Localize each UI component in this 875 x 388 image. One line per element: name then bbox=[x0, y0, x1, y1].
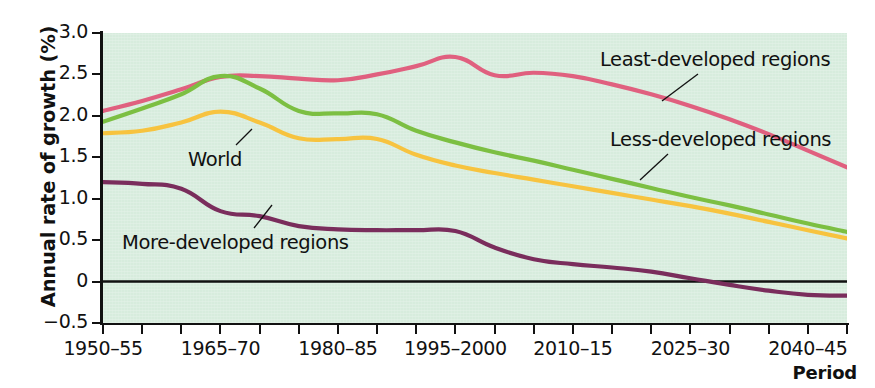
x-tick-label: 1950–55 bbox=[63, 337, 142, 359]
y-tick-mark bbox=[92, 115, 100, 117]
x-axis-title: Period bbox=[793, 362, 858, 383]
x-tick-mark bbox=[219, 325, 221, 334]
x-tick-mark bbox=[337, 325, 339, 334]
x-tick-mark bbox=[298, 325, 300, 334]
y-tick-label: 3.0 bbox=[20, 20, 88, 42]
x-tick-mark bbox=[180, 325, 182, 334]
x-tick-label: 2025–30 bbox=[651, 337, 730, 359]
y-tick-mark bbox=[92, 198, 100, 200]
x-tick-mark bbox=[846, 325, 848, 334]
x-tick-label: 1980–85 bbox=[298, 337, 377, 359]
x-tick-mark bbox=[454, 325, 456, 334]
y-tick-mark bbox=[92, 281, 100, 283]
x-tick-label: 2010–15 bbox=[533, 337, 612, 359]
population-growth-rate-chart: Annual rate of growth (%) −0.500.51.01.5… bbox=[0, 0, 875, 388]
x-axis-line bbox=[100, 323, 849, 325]
annotation-less-developed-regions: Less-developed regions bbox=[610, 128, 831, 151]
annotation-least-developed-regions: Least-developed regions bbox=[600, 48, 830, 71]
x-tick-label: 2040–45 bbox=[768, 337, 847, 359]
x-tick-mark bbox=[259, 325, 261, 334]
y-tick-label: 2.0 bbox=[20, 103, 88, 125]
y-tick-mark bbox=[92, 239, 100, 241]
x-tick-mark bbox=[650, 325, 652, 334]
x-tick-mark bbox=[141, 325, 143, 334]
x-tick-mark bbox=[415, 325, 417, 334]
x-tick-mark bbox=[807, 325, 809, 334]
plot-area bbox=[103, 33, 847, 323]
x-tick-mark bbox=[729, 325, 731, 334]
series-lines bbox=[103, 33, 847, 323]
x-tick-label: 1965–70 bbox=[181, 337, 260, 359]
x-tick-mark bbox=[611, 325, 613, 334]
x-tick-mark bbox=[572, 325, 574, 334]
x-tick-mark bbox=[533, 325, 535, 334]
y-tick-label: 2.5 bbox=[20, 61, 88, 83]
x-tick-mark bbox=[689, 325, 691, 334]
annotation-world: World bbox=[188, 148, 242, 171]
y-tick-mark bbox=[92, 156, 100, 158]
y-tick-label: 0 bbox=[20, 269, 88, 291]
y-tick-mark bbox=[92, 32, 100, 34]
x-tick-mark bbox=[768, 325, 770, 334]
x-tick-mark bbox=[494, 325, 496, 334]
y-tick-label: 1.5 bbox=[20, 144, 88, 166]
y-tick-label: −0.5 bbox=[20, 310, 88, 332]
x-tick-mark bbox=[102, 325, 104, 334]
y-tick-mark bbox=[92, 322, 100, 324]
y-tick-label: 0.5 bbox=[20, 227, 88, 249]
x-tick-mark bbox=[376, 325, 378, 334]
annotation-more-developed-regions: More-developed regions bbox=[122, 231, 349, 254]
y-tick-mark bbox=[92, 73, 100, 75]
x-tick-label: 1995–2000 bbox=[404, 337, 507, 359]
y-tick-label: 1.0 bbox=[20, 186, 88, 208]
